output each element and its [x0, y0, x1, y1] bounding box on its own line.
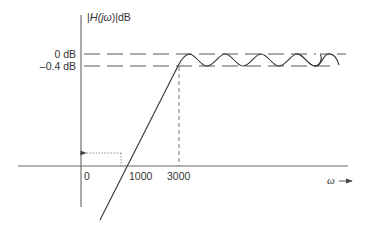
y-tick-minus-0-4db: –0.4 dB: [40, 60, 76, 72]
x-axis-label: ω: [327, 174, 335, 186]
x-tick-3000: 3000: [167, 170, 191, 182]
x-tick-1000: 1000: [129, 170, 153, 182]
y-axis-label: |H(jω)|dB: [87, 11, 131, 23]
y-tick-0db: 0 dB: [54, 48, 76, 60]
response-curve: [100, 54, 321, 220]
x-tick-0: 0: [84, 170, 90, 182]
magnitude-response-diagram: |H(jω)|dB 0 dB –0.4 dB 0 1000 3000 ω: [0, 0, 376, 228]
